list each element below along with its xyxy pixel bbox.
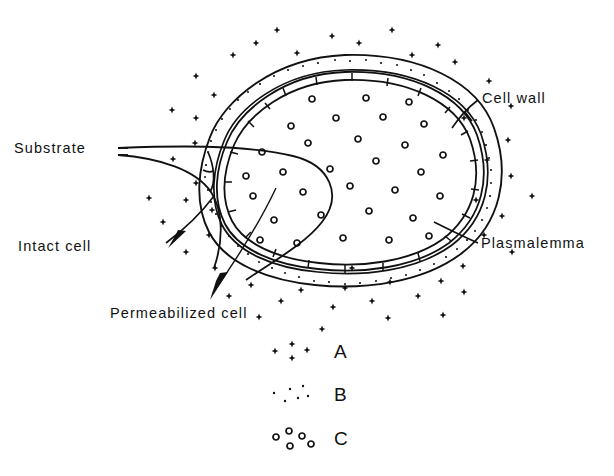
plasmalemma-inner-line: [225, 80, 477, 265]
cell-wall-outer-contour: [199, 55, 501, 287]
label-permeabilized-cell: Permeabilized cell: [110, 305, 247, 321]
legend-symbol-b: [273, 385, 309, 402]
substrate-leader: [118, 148, 128, 155]
legend-letter-b: B: [334, 384, 347, 405]
legend-row-c: C: [273, 428, 348, 449]
figure-canvas: Substrate Intact cell Permeabilized cell…: [0, 0, 614, 476]
label-cell-wall: Cell wall: [482, 90, 546, 106]
label-plasmalemma: Plasmalemma: [481, 235, 585, 251]
legend-letter-c: C: [334, 428, 348, 449]
label-intact-cell: Intact cell: [18, 238, 91, 254]
substrate-hook-tip: [203, 170, 213, 172]
substrate-lobe-lower: [118, 155, 221, 268]
legend-letter-a: A: [334, 341, 347, 362]
label-substrate: Substrate: [14, 140, 86, 156]
legend-symbol-c: [273, 428, 314, 449]
cytoplasm-symbols-C: [243, 95, 446, 246]
legend-row-a: A: [272, 341, 347, 362]
legend-symbol-a: [272, 341, 311, 362]
intact-cell-arrow: [166, 196, 214, 248]
legend-row-b: B: [273, 384, 347, 405]
